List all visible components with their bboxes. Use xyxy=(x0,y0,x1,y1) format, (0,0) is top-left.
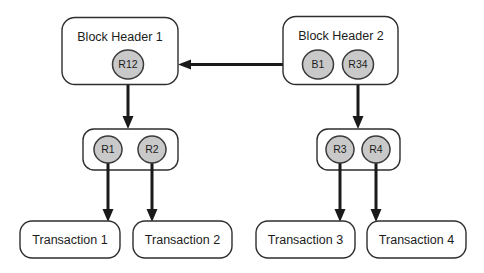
node-r4-label: R4 xyxy=(369,143,383,155)
block-header-1-label: Block Header 1 xyxy=(77,30,163,44)
node-r3[interactable]: R3 xyxy=(326,136,354,163)
arrowhead-down-icon xyxy=(123,116,134,129)
node-r12-label: R12 xyxy=(118,58,137,70)
arrowhead-left-icon xyxy=(178,60,191,70)
transaction-4-label: Transaction 4 xyxy=(379,233,454,247)
diagram-canvas: Block Header 1 Block Header 2 xyxy=(0,0,484,273)
node-r4[interactable]: R4 xyxy=(362,136,390,163)
node-r2-label: R2 xyxy=(145,143,159,155)
node-b1-label: B1 xyxy=(312,58,325,70)
block-header-2-box xyxy=(283,17,398,85)
node-r2[interactable]: R2 xyxy=(138,136,166,163)
arrowhead-down-icon xyxy=(147,209,158,222)
transaction-3[interactable]: Transaction 3 xyxy=(256,221,355,258)
transaction-3-label: Transaction 3 xyxy=(268,233,343,247)
merkle-tree-diagram: Block Header 1 Block Header 2 xyxy=(0,0,484,273)
node-r12[interactable]: R12 xyxy=(113,50,144,79)
transaction-1-label: Transaction 1 xyxy=(32,233,107,247)
arrowhead-down-icon xyxy=(371,209,382,222)
node-r34-label: R34 xyxy=(348,58,367,70)
block-header-2-label: Block Header 2 xyxy=(298,29,384,43)
transaction-1[interactable]: Transaction 1 xyxy=(20,221,120,258)
node-r34[interactable]: R34 xyxy=(343,50,374,79)
block-header-2[interactable]: Block Header 2 xyxy=(283,17,398,85)
arrowhead-down-icon xyxy=(353,116,364,129)
node-r1[interactable]: R1 xyxy=(94,136,122,163)
transaction-2-label: Transaction 2 xyxy=(145,233,220,247)
node-b1[interactable]: B1 xyxy=(303,50,334,79)
arrowhead-down-icon xyxy=(103,209,114,222)
transaction-2[interactable]: Transaction 2 xyxy=(133,221,232,258)
node-r1-label: R1 xyxy=(101,143,115,155)
arrowhead-down-icon xyxy=(335,209,346,222)
node-r3-label: R3 xyxy=(333,143,347,155)
transaction-4[interactable]: Transaction 4 xyxy=(367,221,466,258)
